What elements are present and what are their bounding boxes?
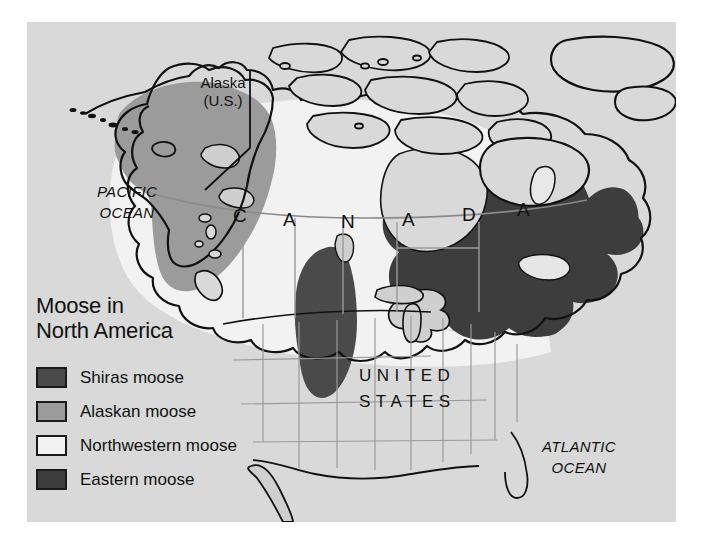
legend-swatch-icon [36, 401, 67, 422]
map-title-line2: North America [36, 318, 266, 343]
legend-label-shiras-moose: Shiras moose [80, 368, 184, 388]
lake-superior [375, 286, 423, 304]
map-title-line1: Moose in [36, 293, 266, 318]
legend-item-shiras-moose[interactable]: Shiras moose [36, 363, 266, 392]
lake-michigan [403, 304, 421, 343]
legend-label-alaskan-moose: Alaskan moose [80, 402, 196, 422]
map-title: Moose in North America [36, 293, 266, 343]
legend-item-eastern-moose[interactable]: Eastern moose [36, 465, 266, 494]
greenland-southern-lobe [615, 86, 676, 120]
legend-label-eastern-moose: Eastern moose [80, 470, 194, 490]
greenland-coast [551, 37, 674, 92]
map-legend: Moose in North America Shiras moose Alas… [36, 293, 266, 499]
legend-label-northwestern-moose: Northwestern moose [80, 436, 237, 456]
legend-item-northwestern-moose[interactable]: Northwestern moose [36, 431, 266, 460]
legend-swatch-icon [36, 435, 67, 456]
map-page: Alaska (U.S.) PACIFIC OCEAN ATLANTIC OCE… [0, 0, 712, 550]
legend-swatch-icon [36, 367, 67, 388]
legend-swatch-icon [36, 469, 67, 490]
legend-item-alaskan-moose[interactable]: Alaskan moose [36, 397, 266, 426]
